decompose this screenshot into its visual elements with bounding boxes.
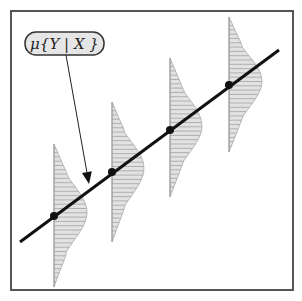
regression-diagram: μ{Y | X } <box>0 0 302 301</box>
mean-dot <box>225 81 233 89</box>
mean-dot <box>108 168 116 176</box>
mean-label: μ{Y | X } <box>30 35 99 53</box>
mean-dot <box>166 126 174 134</box>
mean-dot <box>50 212 58 220</box>
